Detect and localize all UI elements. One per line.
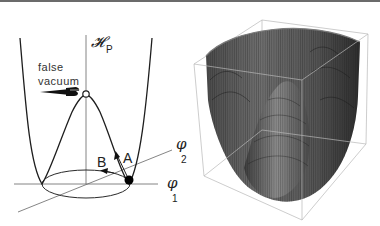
energy-subscript: P	[106, 44, 113, 55]
phi2-axis	[18, 150, 172, 212]
energy-symbol: 𝓗	[91, 33, 105, 51]
phi1-subscript: 1	[172, 194, 178, 204]
phi2-label: φ2	[176, 137, 187, 152]
phi2-subscript: 2	[181, 155, 187, 165]
false-label-line1: false	[38, 62, 64, 73]
potential-schematic: false vacuum 𝓗P φ2 φ1 A B	[0, 0, 190, 226]
false-vacuum-marker	[83, 91, 89, 97]
phi2-symbol: φ	[176, 135, 187, 153]
phi1-label: φ1	[167, 176, 178, 191]
label-b: B	[97, 155, 106, 169]
label-a: A	[123, 151, 132, 165]
false-label-line2: vacuum	[38, 76, 80, 87]
potential-3d-surface	[190, 0, 380, 226]
ball-true-vacuum	[125, 176, 134, 185]
phi1-symbol: φ	[167, 174, 178, 192]
energy-axis-label: 𝓗P	[91, 35, 113, 50]
surface-plot	[190, 0, 380, 226]
pointing-hand-icon	[40, 87, 79, 96]
